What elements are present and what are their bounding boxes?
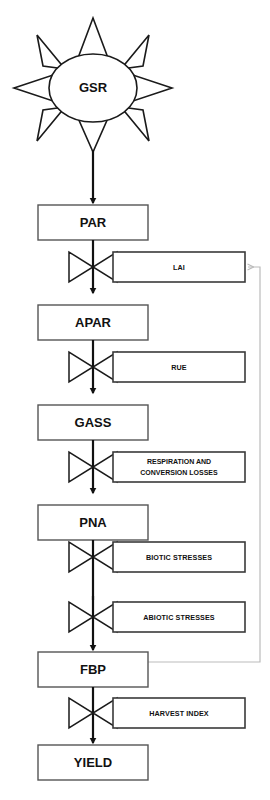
stock-yield: YIELD <box>38 745 148 780</box>
valve-abiotic-icon <box>69 602 93 632</box>
abiotic-label: ABIOTIC STRESSES <box>143 613 215 622</box>
valve-lai-icon <box>69 252 93 282</box>
valve-respiration-icon <box>69 452 93 482</box>
sun-ray-n-icon <box>78 18 108 58</box>
par-label: PAR <box>80 215 107 230</box>
sun-ray-s-icon <box>78 118 108 152</box>
flow-valve-abiotic-group: ABIOTIC STRESSES <box>69 596 245 650</box>
flow-valve-biotic-group: BIOTIC STRESSES <box>69 540 245 600</box>
flow-valve-harvest-index-group: HARVEST INDEX <box>69 687 245 743</box>
flow-valve-lai-group: LAI <box>69 240 245 293</box>
flow-valve-rue-group: RUE <box>69 340 245 393</box>
fbp-label: FBP <box>80 662 106 677</box>
respiration-label-line1: RESPIRATION AND <box>147 458 211 465</box>
yield-label: YIELD <box>74 755 112 770</box>
gsr-label: GSR <box>79 80 108 95</box>
stock-apar: APAR <box>38 305 148 340</box>
biotic-label: BIOTIC STRESSES <box>146 553 212 562</box>
flow-valve-respiration-group: RESPIRATION AND CONVERSION LOSSES <box>69 440 245 493</box>
pna-label: PNA <box>79 515 107 530</box>
stock-gass: GASS <box>38 405 148 440</box>
gsr-sun-source: GSR <box>14 18 172 152</box>
valve-rue-icon <box>69 352 93 382</box>
stock-par: PAR <box>38 205 148 240</box>
respiration-label-line2: CONVERSION LOSSES <box>140 469 218 476</box>
flow-diagram-canvas: GSR PAR LAI APAR RUE <box>0 0 270 800</box>
stock-fbp: FBP <box>38 652 148 687</box>
gass-label: GASS <box>75 415 112 430</box>
respiration-box <box>113 452 245 482</box>
harvest-index-label: HARVEST INDEX <box>149 709 209 718</box>
lai-label: LAI <box>173 263 185 272</box>
valve-biotic-icon <box>69 542 93 572</box>
valve-harvest-index-icon <box>69 698 93 728</box>
stock-pna: PNA <box>38 505 148 540</box>
rue-label: RUE <box>171 363 187 372</box>
apar-label: APAR <box>75 315 111 330</box>
